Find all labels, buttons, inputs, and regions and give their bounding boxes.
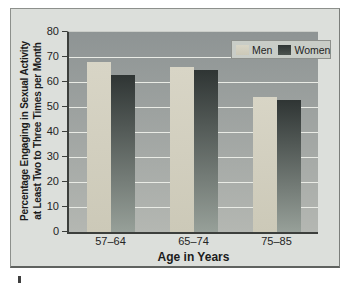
legend-swatch-men [236, 45, 249, 55]
y-tick-label-40: 40 [11, 125, 59, 137]
y-tick-label-20: 20 [11, 175, 59, 187]
legend: Men Women [231, 40, 331, 59]
x-label-65-74: 65–74 [154, 235, 234, 247]
x-label-75-85: 75–85 [237, 235, 317, 247]
y-tick-label-30: 30 [11, 150, 59, 162]
bar-women-65-74 [194, 70, 218, 233]
x-label-57-64: 57–64 [71, 235, 151, 247]
x-axis-title: Age in Years [123, 250, 264, 264]
bar-women-57-64 [111, 75, 135, 233]
legend-label-men: Men [252, 44, 272, 56]
y-tick-label-60: 60 [11, 75, 59, 87]
bar-men-57-64 [87, 62, 111, 232]
caption-mark [18, 276, 21, 283]
bar-men-75-85 [253, 97, 277, 232]
bar-women-75-85 [277, 100, 301, 233]
y-tick-label-10: 10 [11, 200, 59, 212]
legend-label-women: Women [294, 44, 330, 56]
y-tick-label-70: 70 [11, 50, 59, 62]
y-tick-label-50: 50 [11, 100, 59, 112]
y-tick-label-80: 80 [11, 25, 59, 37]
figure-panel: Percentage Engaging in Sexual Activity a… [10, 8, 340, 268]
bar-men-65-74 [170, 67, 194, 232]
plot-area [67, 31, 318, 234]
legend-swatch-women [278, 45, 291, 55]
page: Percentage Engaging in Sexual Activity a… [0, 0, 351, 283]
y-tick-label-0: 0 [11, 225, 59, 237]
